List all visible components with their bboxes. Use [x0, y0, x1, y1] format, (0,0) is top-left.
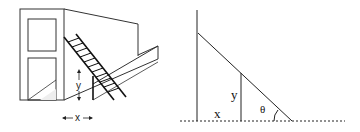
left-y-label: y — [76, 80, 81, 91]
y-arrow-up-head — [77, 69, 81, 73]
ladder-line — [198, 33, 292, 121]
y-arrow-down-head — [77, 97, 81, 101]
right-y-label: y — [231, 87, 238, 102]
door-shade — [40, 89, 56, 100]
side-wall-top — [64, 9, 138, 24]
theta-arc — [274, 110, 278, 121]
left-illustration — [20, 9, 158, 120]
x-arrow-left-head — [62, 116, 66, 120]
ladder-fence-figure: y x x y θ — [0, 0, 360, 132]
building-front — [20, 9, 64, 100]
theta-label: θ — [260, 103, 265, 115]
fence-plane-top — [93, 46, 158, 84]
building-window — [28, 19, 56, 51]
left-x-label: x — [75, 112, 80, 123]
ladder-rail-left — [64, 37, 114, 100]
x-arrow-right-head — [89, 116, 93, 120]
fence-plane-top-back — [138, 46, 158, 55]
ladder-rail-right — [76, 34, 126, 97]
right-x-label: x — [214, 106, 221, 121]
